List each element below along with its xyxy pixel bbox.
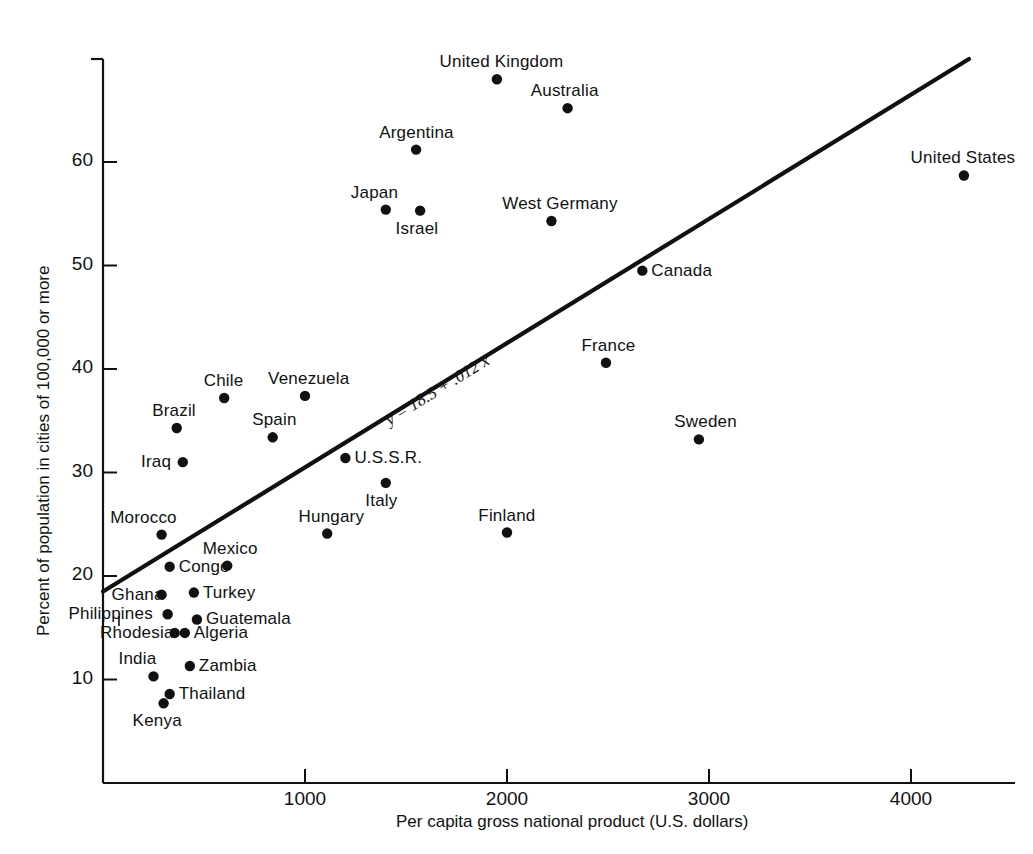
- data-point-label: Brazil: [152, 401, 196, 421]
- data-point-marker: [164, 689, 174, 699]
- data-point-label: Venezuela: [268, 369, 349, 389]
- y-tick-label-30: 30: [53, 460, 93, 482]
- data-point-label: India: [119, 649, 157, 669]
- data-point-label: Morocco: [110, 508, 177, 528]
- data-point-marker: [158, 698, 168, 708]
- data-point-marker: [562, 103, 572, 113]
- y-tick-label-20: 20: [53, 563, 93, 585]
- data-point-label: Hungary: [299, 507, 365, 527]
- data-point-marker: [267, 432, 277, 442]
- data-point-label: Italy: [365, 491, 397, 511]
- data-point-marker: [172, 423, 182, 433]
- data-point-label: France: [581, 336, 635, 356]
- y-tick-label-10: 10: [53, 667, 93, 689]
- data-point-label: Ghana: [112, 585, 164, 605]
- scatter-plot-figure: 1020304050601000200030004000 United King…: [0, 0, 1033, 854]
- data-point-marker: [502, 527, 512, 537]
- data-point-marker: [164, 561, 174, 571]
- data-point-marker: [148, 671, 158, 681]
- regression-line: [103, 59, 969, 591]
- data-point-label: Turkey: [203, 583, 256, 603]
- data-point-label: Kenya: [133, 711, 182, 731]
- data-point-label: Israel: [396, 219, 439, 239]
- data-point-label: United States: [911, 148, 1016, 168]
- x-tick-label-4000: 4000: [878, 788, 944, 810]
- data-point-label: Australia: [531, 81, 599, 101]
- data-point-label: Congo: [179, 557, 230, 577]
- x-tick-label-3000: 3000: [676, 788, 742, 810]
- data-point-marker: [694, 434, 704, 444]
- data-point-marker: [492, 74, 502, 84]
- data-point-marker: [178, 457, 188, 467]
- y-axis-title: Percent of population in cities of 100,0…: [34, 266, 54, 636]
- data-point-marker: [185, 661, 195, 671]
- data-point-label: West Germany: [502, 194, 617, 214]
- x-tick-label-1000: 1000: [272, 788, 338, 810]
- data-point-label: Argentina: [379, 123, 454, 143]
- data-point-marker: [156, 529, 166, 539]
- data-point-marker: [411, 144, 421, 154]
- data-point-label: Iraq: [141, 452, 171, 472]
- data-point-marker: [601, 358, 611, 368]
- data-point-marker: [637, 265, 647, 275]
- regression-fit-line: [103, 59, 969, 591]
- data-point-marker: [381, 204, 391, 214]
- data-point-label: U.S.S.R.: [354, 448, 422, 468]
- data-point-label: Chile: [204, 371, 244, 391]
- data-point-marker: [162, 609, 172, 619]
- data-point-label: Philippines: [68, 604, 152, 624]
- data-point-marker: [300, 391, 310, 401]
- data-point-marker: [381, 478, 391, 488]
- data-point-label: Spain: [252, 410, 296, 430]
- data-point-label: Sweden: [674, 412, 737, 432]
- data-point-label: Rhodesia: [100, 623, 173, 643]
- data-point-marker: [322, 528, 332, 538]
- data-point-marker: [415, 205, 425, 215]
- data-point-marker: [340, 453, 350, 463]
- y-tick-label-50: 50: [53, 253, 93, 275]
- data-point-label: Japan: [351, 183, 398, 203]
- data-point-label: United Kingdom: [440, 52, 564, 72]
- data-point-label: Thailand: [179, 684, 246, 704]
- y-tick-label-40: 40: [53, 356, 93, 378]
- data-point-label: Mexico: [203, 539, 258, 559]
- data-point-label: Finland: [478, 506, 535, 526]
- data-point-marker: [189, 587, 199, 597]
- x-tick-label-2000: 2000: [474, 788, 540, 810]
- data-point-marker: [180, 628, 190, 638]
- data-point-label: Canada: [651, 261, 712, 281]
- data-point-marker: [546, 216, 556, 226]
- data-point-marker: [959, 170, 969, 180]
- x-axis-title: Per capita gross national product (U.S. …: [396, 812, 748, 832]
- y-tick-label-60: 60: [53, 149, 93, 171]
- data-point-label: Zambia: [199, 656, 257, 676]
- data-point-marker: [219, 393, 229, 403]
- data-point-label: Algeria: [194, 623, 248, 643]
